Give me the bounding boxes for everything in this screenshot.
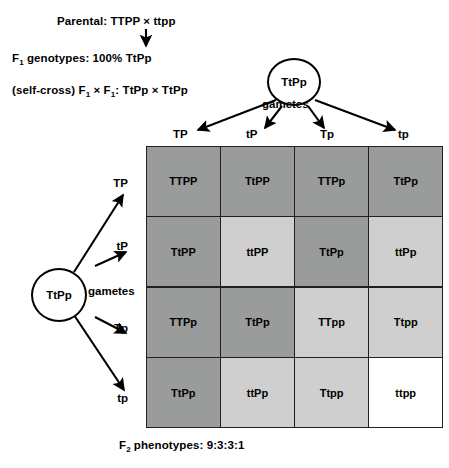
row-gamete-label-2: Tp	[0, 322, 128, 334]
parental-cross-line: Parental: TTPP × ttpp	[57, 15, 176, 27]
punnett-cell-r0-c2: TTPp	[295, 147, 368, 216]
punnett-cell-genotype: Ttpp	[320, 387, 344, 399]
punnett-cell-r1-c0: TtPP	[147, 217, 220, 286]
punnett-cell-r0-c0: TTPP	[147, 147, 220, 216]
punnett-cell-r3-c1: ttPp	[221, 358, 294, 427]
left-parent-gamete-circle: TtPp	[31, 268, 87, 322]
f1-genotypes-line: F1 genotypes: 100% TtPp	[12, 52, 152, 67]
column-gamete-label-0: TP	[173, 128, 188, 140]
punnett-cell-r0-c1: TtPP	[221, 147, 294, 216]
left-gamete-arrow-tp-lower-p	[95, 252, 126, 266]
self-cross-line: (self-cross) F1 × F1: TtPp × TtPp	[12, 84, 188, 99]
punnett-cell-genotype: TtPP	[171, 246, 196, 258]
punnett-cell-genotype: TtPp	[393, 175, 417, 187]
row-gamete-label-3: tp	[0, 392, 128, 404]
caption-text: phenotypes: 9:3:3:1	[131, 439, 245, 451]
row-gamete-label-1: tP	[0, 240, 128, 252]
left-gametes-label: gametes	[88, 285, 135, 297]
punnett-cell-r0-c3: TtPp	[369, 147, 442, 216]
column-gamete-label-2: Tp	[320, 128, 334, 140]
punnett-cell-genotype: TtPp	[245, 316, 269, 328]
punnett-cell-genotype: TtPp	[171, 387, 195, 399]
left-gamete-arrow-tp-capital	[74, 195, 123, 272]
top-gamete-arrow-tp-upper-t	[308, 106, 324, 128]
punnett-cell-r2-c1: TtPp	[221, 288, 294, 357]
self-cross-suffix: : TtPp × TtPp	[115, 84, 188, 96]
punnett-cell-genotype: TtPp	[319, 246, 343, 258]
punnett-cell-genotype: TTpp	[318, 316, 345, 328]
punnett-cell-genotype: TTPP	[169, 175, 197, 187]
parental-cross-text: Parental: TTPP × ttpp	[57, 15, 176, 27]
punnett-cell-genotype: TtPP	[245, 175, 270, 187]
top-gametes-label: gametes	[262, 98, 309, 110]
punnett-cell-r1-c2: TtPp	[295, 217, 368, 286]
top-parent-genotype: TtPp	[281, 76, 307, 88]
f2-phenotypes-caption: F2 phenotypes: 9:3:3:1	[119, 439, 244, 454]
column-gamete-label-1: tP	[246, 128, 258, 140]
punnett-cell-r2-c0: TTPp	[147, 288, 220, 357]
self-cross-prefix: (self-cross) F	[12, 84, 86, 96]
punnett-cell-r3-c2: Ttpp	[295, 358, 368, 427]
punnett-cell-r2-c3: Ttpp	[369, 288, 442, 357]
punnett-cell-genotype: TTPp	[170, 316, 198, 328]
f1-genotypes-text: genotypes: 100% TtPp	[24, 52, 152, 64]
punnett-cell-genotype: ttpp	[395, 387, 416, 399]
left-parent-genotype: TtPp	[46, 289, 72, 301]
punnett-cell-genotype: Ttpp	[394, 316, 418, 328]
punnett-square-grid: TTPPTtPPTTPpTtPpTtPPttPPTtPpttPpTTPpTtPp…	[146, 146, 443, 428]
self-cross-middle: × F	[90, 84, 111, 96]
punnett-cell-genotype: ttPp	[395, 246, 416, 258]
punnett-cell-r1-c3: ttPp	[369, 217, 442, 286]
punnett-cell-r3-c0: TtPp	[147, 358, 220, 427]
top-gamete-arrow-tp-lower	[315, 100, 395, 130]
punnett-cell-genotype: ttPp	[247, 387, 268, 399]
punnett-cell-genotype: ttPP	[246, 246, 268, 258]
row-gamete-label-0: TP	[0, 177, 128, 189]
punnett-cell-r2-c2: TTpp	[295, 288, 368, 357]
punnett-cell-r3-c3: ttpp	[369, 358, 442, 427]
punnett-cell-genotype: TTPp	[318, 175, 346, 187]
column-gamete-label-3: tp	[398, 128, 409, 140]
punnett-cell-r1-c1: ttPP	[221, 217, 294, 286]
